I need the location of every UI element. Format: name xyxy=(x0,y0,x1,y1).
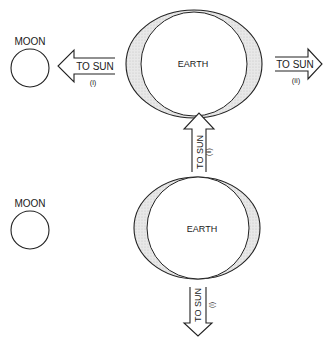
arrow-right-label: TO SUN xyxy=(276,59,314,70)
arrow-left-to-sun: TO SUN (i) xyxy=(58,50,115,87)
arrow-right-sublabel: (ii) xyxy=(292,76,301,85)
arrow-up-label: TO SUN xyxy=(195,135,205,169)
top-panel: MOON TO SUN (i) EARTH TO SUN (ii) xyxy=(11,10,322,118)
moon-label: MOON xyxy=(14,36,45,47)
arrow-down-to-sun: TO SUN (i) xyxy=(184,287,216,336)
arrow-down-sublabel: (i) xyxy=(208,302,216,308)
earth-bottom: EARTH xyxy=(134,177,260,279)
earth-top: EARTH xyxy=(126,10,262,118)
arrow-right-to-sun: TO SUN (ii) xyxy=(275,49,322,85)
arrow-left-sublabel: (i) xyxy=(90,78,97,87)
moon-label: MOON xyxy=(14,198,45,209)
moon-circle xyxy=(11,211,49,249)
earth-label: EARTH xyxy=(187,224,217,234)
arrow-down-label: TO SUN xyxy=(193,288,203,322)
arrow-up-sublabel: (ii) xyxy=(205,148,213,156)
earth-label: EARTH xyxy=(178,59,208,69)
bottom-panel: MOON EARTH TO SUN (i) xyxy=(11,177,260,336)
arrow-left-label: TO SUN xyxy=(76,61,114,72)
arrow-up-to-sun: TO SUN (ii) xyxy=(184,113,214,172)
moon-circle xyxy=(11,49,49,87)
tides-diagram: MOON TO SUN (i) EARTH TO SUN (ii) TO SUN… xyxy=(0,0,329,341)
